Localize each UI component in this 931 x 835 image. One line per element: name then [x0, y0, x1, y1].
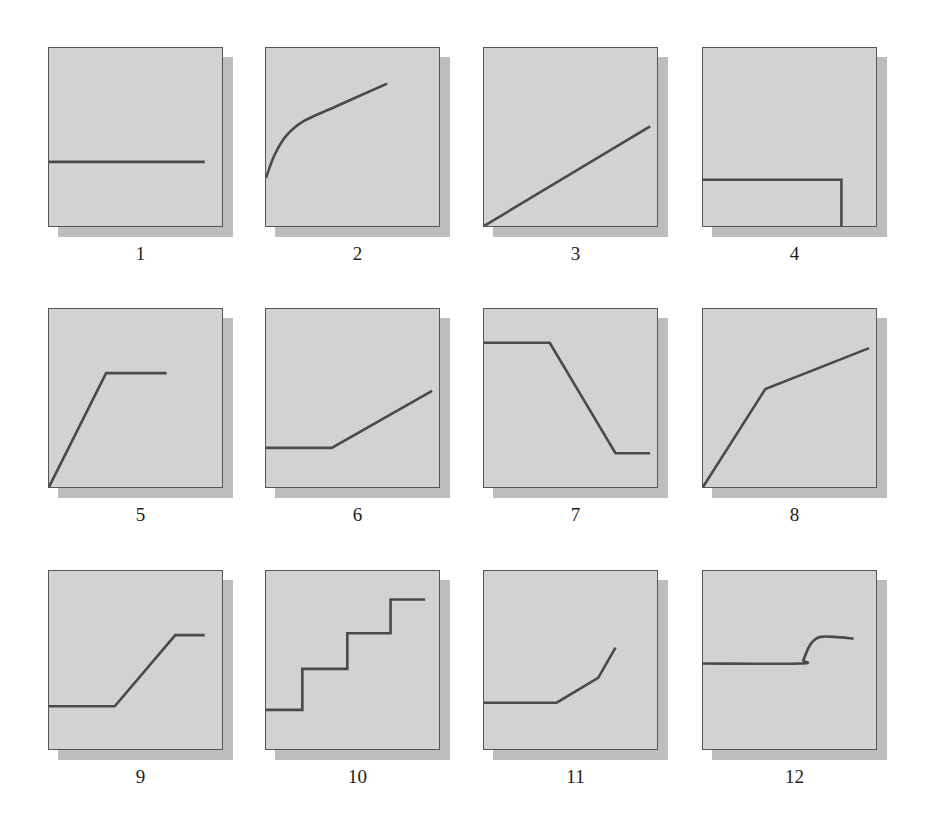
graph-box	[702, 570, 877, 750]
graph-curve	[703, 48, 876, 226]
graph-panel-8: 8	[702, 308, 877, 528]
panel-label: 9	[48, 766, 233, 788]
graph-panel-9: 9	[48, 570, 223, 790]
graph-box	[265, 47, 440, 227]
graph-box	[265, 570, 440, 750]
panel-label: 4	[702, 243, 887, 265]
graph-box	[702, 308, 877, 488]
graph-panel-11: 11	[483, 570, 658, 790]
graph-curve	[49, 309, 222, 487]
graph-panel-6: 6	[265, 308, 440, 528]
graph-curve	[266, 309, 439, 487]
graph-box	[48, 47, 223, 227]
graph-curve	[484, 571, 657, 749]
graph-curve	[49, 571, 222, 749]
graph-box	[265, 308, 440, 488]
panel-label: 1	[48, 243, 233, 265]
graph-box	[483, 570, 658, 750]
panel-label: 2	[265, 243, 450, 265]
panel-label: 6	[265, 504, 450, 526]
panel-label: 7	[483, 504, 668, 526]
graph-panel-3: 3	[483, 47, 658, 267]
graph-panel-10: 10	[265, 570, 440, 790]
graph-panel-4: 4	[702, 47, 877, 267]
graph-box	[48, 308, 223, 488]
graph-box	[702, 47, 877, 227]
graph-panel-7: 7	[483, 308, 658, 528]
panel-label: 11	[483, 766, 668, 788]
panel-label: 3	[483, 243, 668, 265]
graph-panel-5: 5	[48, 308, 223, 528]
graph-curve	[266, 48, 439, 226]
panel-label: 12	[702, 766, 887, 788]
graph-box	[483, 308, 658, 488]
graph-curve	[484, 309, 657, 487]
panel-label: 5	[48, 504, 233, 526]
panel-label: 8	[702, 504, 887, 526]
graph-panel-2: 2	[265, 47, 440, 267]
graph-panel-1: 1	[48, 47, 223, 267]
graph-curve	[484, 48, 657, 226]
graph-panel-12: 12	[702, 570, 877, 790]
graph-box	[483, 47, 658, 227]
graph-box	[48, 570, 223, 750]
graph-curve	[266, 571, 439, 749]
panel-label: 10	[265, 766, 450, 788]
graph-curve	[703, 309, 876, 487]
graph-curve	[703, 571, 876, 749]
graph-curve	[49, 48, 222, 226]
